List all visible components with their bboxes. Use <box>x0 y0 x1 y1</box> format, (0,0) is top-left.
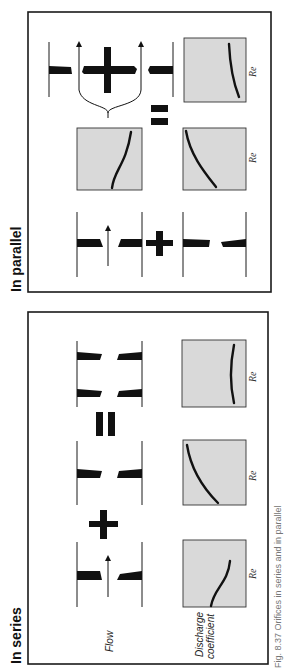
series-plot-combined <box>182 340 246 407</box>
plus-icon <box>146 231 173 256</box>
series-plot-orifice-2 <box>183 440 246 505</box>
parallel-orifice-2 <box>183 212 246 277</box>
re-axis-label: Re <box>247 470 258 482</box>
parallel-plot-orifice-2 <box>183 128 246 190</box>
flow-label: Flow <box>104 630 115 652</box>
series-title: In series <box>8 607 24 664</box>
discharge-label-line2: coefficient <box>205 613 216 659</box>
series-orifice-2 <box>77 441 142 505</box>
parallel-plot-orifice-1 <box>77 128 142 190</box>
equals-icon <box>151 105 168 125</box>
parallel-panel: In parallel Re <box>8 12 271 292</box>
re-axis-label: Re <box>247 568 258 580</box>
plus-icon <box>89 510 118 539</box>
series-combined-orifice <box>77 341 142 407</box>
series-panel: In series Flow Discharge coefficient <box>8 312 268 664</box>
plus-icon <box>104 47 111 93</box>
re-axis-label: Re <box>247 371 258 383</box>
equals-icon <box>96 412 115 436</box>
series-orifice-1 <box>77 542 142 607</box>
orifice-diagram: In parallel Re <box>0 0 285 672</box>
re-axis-label: Re <box>247 66 258 78</box>
parallel-title: In parallel <box>8 227 24 292</box>
re-axis-label: Re <box>247 152 258 164</box>
flow-arrow-icon <box>79 44 108 118</box>
parallel-orifice-1 <box>77 212 142 277</box>
discharge-label-line1: Discharge <box>194 612 205 657</box>
figure-caption: Fig. 8.37 Orifices in series and in para… <box>273 505 283 668</box>
